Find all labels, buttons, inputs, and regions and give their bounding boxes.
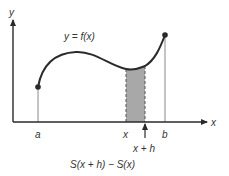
x-axis-label: x (210, 117, 217, 128)
shaded-strip (126, 66, 145, 122)
tick-label-x-plus-h: x + h (132, 143, 155, 154)
curve-label: y = f(x) (63, 31, 95, 42)
area-function-diagram: y x y = f(x) a x b x + h S(x + h) − S(x) (0, 0, 229, 176)
y-axis-label: y (8, 7, 15, 18)
area-difference-caption: S(x + h) − S(x) (70, 159, 135, 170)
tick-label-a: a (35, 129, 41, 140)
tick-label-b: b (162, 129, 168, 140)
endpoint-a-dot (35, 84, 41, 90)
function-curve (38, 35, 165, 87)
tick-label-x: x (122, 129, 129, 140)
endpoint-b-dot (162, 32, 168, 38)
